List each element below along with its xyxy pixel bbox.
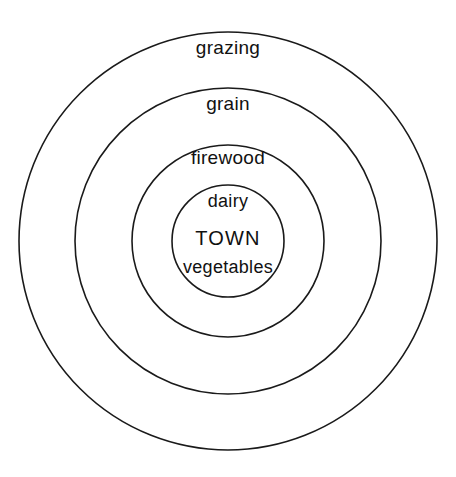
- zone-label-vegetables: vegetables: [183, 258, 273, 276]
- zone-label-grazing: grazing: [196, 38, 260, 57]
- zone-label-grain: grain: [206, 94, 250, 113]
- zone-label-firewood: firewood: [191, 148, 265, 167]
- von-thunen-diagram: grazing grain firewood dairy TOWN vegeta…: [0, 0, 456, 477]
- zone-label-town: TOWN: [195, 228, 261, 248]
- zone-label-dairy: dairy: [208, 192, 249, 210]
